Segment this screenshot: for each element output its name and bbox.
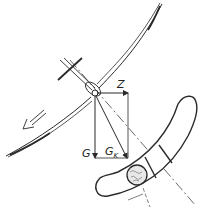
glider-turn-diagram: [0, 0, 201, 209]
right-wing: [97, 3, 162, 88]
weight-label: G: [82, 148, 91, 159]
label-z: Z: [117, 78, 125, 91]
label-gk-main: G: [105, 145, 114, 158]
ball-axis-lines: [128, 188, 150, 207]
centrifugal-force-label: Z: [117, 79, 125, 90]
resultant-force-label: GK: [105, 146, 118, 160]
flight-direction-arrow-icon: [23, 110, 46, 129]
left-wing: [6, 97, 92, 157]
label-gk-sub: K: [114, 152, 119, 160]
label-g: G: [82, 147, 91, 160]
slip-indicator-ball: [127, 165, 147, 185]
